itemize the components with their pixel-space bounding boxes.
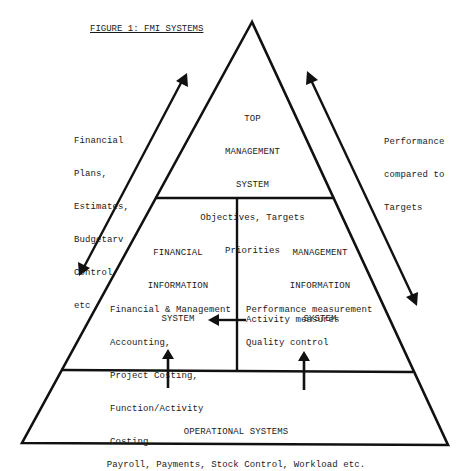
operational-systems: OPERATIONAL SYSTEMS Payroll, Payments, S…: [60, 405, 412, 471]
right-flow-line: Targets: [384, 203, 445, 214]
mis-detail-line: Quality control: [246, 338, 373, 349]
activity-measures-label: Activity measures: [246, 315, 340, 326]
top-system-heading: SYSTEM: [180, 180, 325, 191]
right-flow-line: compared to: [384, 170, 445, 181]
mis-heading-line: MANAGEMENT: [270, 248, 370, 259]
fis-heading-line: FINANCIAL: [133, 248, 223, 259]
right-flow-label: Performance compared to Targets: [384, 115, 445, 236]
management-information-system-details: Performance measurement Quality control: [246, 283, 373, 371]
figure-title: FIGURE 1: FMI SYSTEMS: [90, 24, 203, 35]
fis-detail-line: Accounting,: [110, 338, 231, 349]
operational-systems-detail: Payroll, Payments, Stock Control, Worklo…: [60, 460, 412, 471]
right-flow-line: Performance: [384, 137, 445, 148]
fmi-diagram: FIGURE 1: FMI SYSTEMS Financial Plans, E…: [0, 0, 471, 471]
fis-detail-line: Financial & Management: [110, 305, 231, 316]
top-system-detail: Objectives, Targets: [180, 213, 325, 224]
top-system-heading: TOP: [180, 114, 325, 125]
left-flow-line: Financial: [74, 136, 129, 147]
left-flow-line: Plans,: [74, 169, 129, 180]
left-flow-line: Estimates,: [74, 202, 129, 213]
top-system-heading: MANAGEMENT: [180, 147, 325, 158]
left-flow-line: Control: [74, 268, 129, 279]
fis-detail-line: Project Costing,: [110, 371, 231, 382]
operational-systems-heading: OPERATIONAL SYSTEMS: [60, 427, 412, 438]
left-flow-line: Budgetarv: [74, 235, 129, 246]
